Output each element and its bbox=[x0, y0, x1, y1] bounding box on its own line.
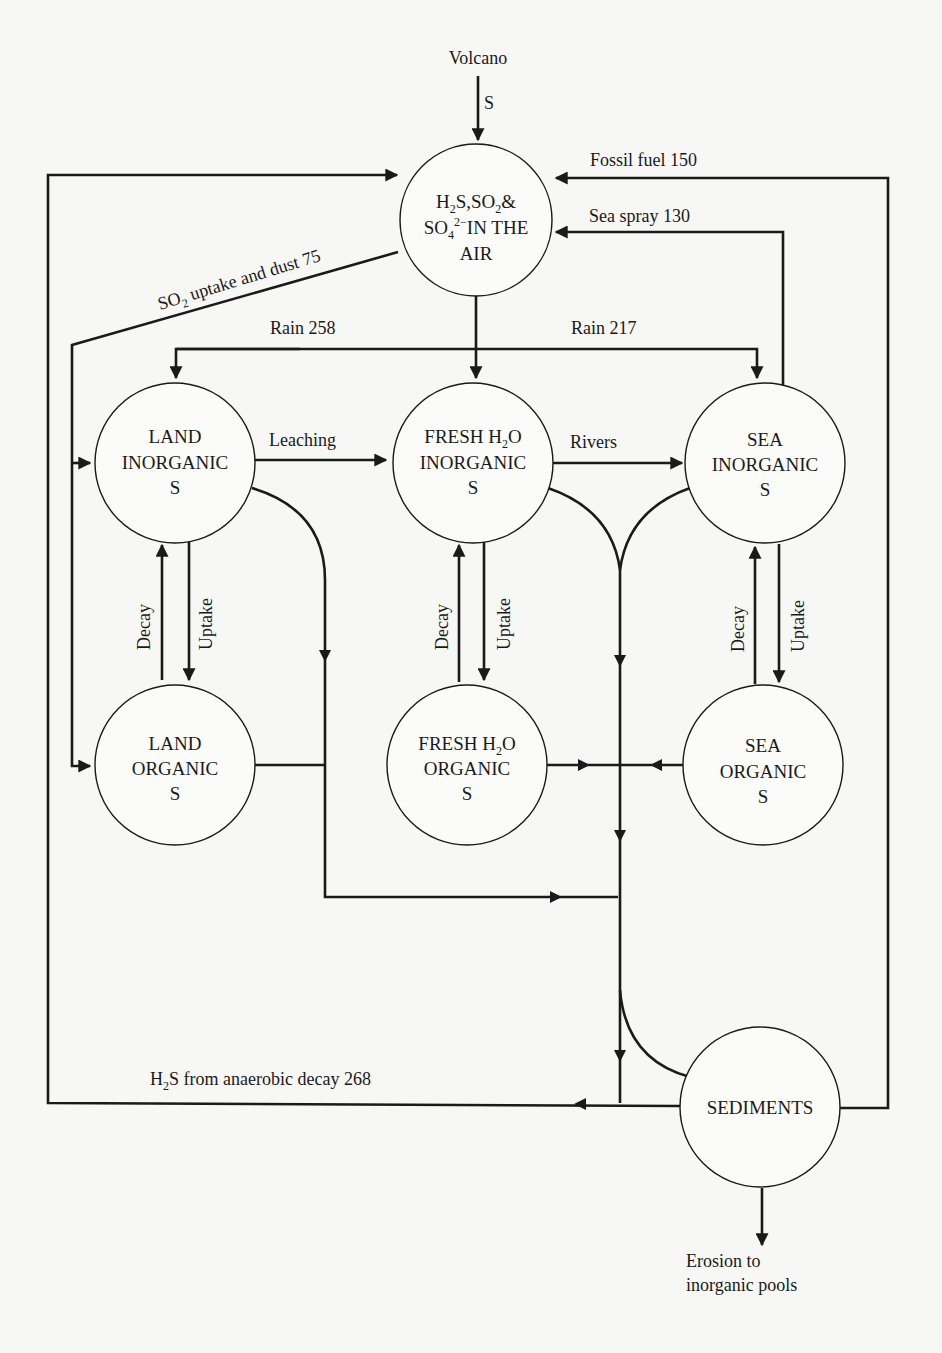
middle-collector-flow bbox=[547, 488, 690, 1103]
rain-flow bbox=[176, 296, 757, 378]
svg-text:INORGANIC: INORGANIC bbox=[420, 452, 527, 473]
arrow-right-icon bbox=[550, 891, 562, 903]
h2s-decay-label: H2S from anaerobic decay 268 bbox=[150, 1069, 371, 1093]
rain-land-line bbox=[176, 349, 300, 378]
rivers-label: Rivers bbox=[570, 432, 617, 452]
fresh-uptake-label: Uptake bbox=[494, 598, 514, 650]
rain-sea-line bbox=[176, 349, 757, 378]
arrow-left-icon bbox=[650, 759, 662, 771]
fresh-inorg-curve bbox=[548, 488, 620, 570]
svg-text:ORGANIC: ORGANIC bbox=[424, 758, 511, 779]
land-decay-label: Decay bbox=[134, 604, 154, 650]
svg-text:ORGANIC: ORGANIC bbox=[132, 758, 219, 779]
svg-text:S: S bbox=[760, 479, 771, 500]
sea-decay-uptake bbox=[755, 544, 779, 684]
rain-land-label: Rain 258 bbox=[270, 318, 336, 338]
sea-spray-line bbox=[556, 232, 783, 385]
sea-spray-flow bbox=[556, 232, 783, 385]
node-air: H2S,SO2& SO42−IN THE AIR bbox=[400, 144, 552, 296]
svg-text:ORGANIC: ORGANIC bbox=[720, 761, 807, 782]
arrow-down-icon bbox=[319, 650, 331, 662]
sea-decay-label: Decay bbox=[728, 606, 748, 652]
node-fresh-organic: FRESH H2O ORGANIC S bbox=[387, 685, 547, 845]
sea-spray-label: Sea spray 130 bbox=[589, 206, 690, 226]
node-fresh-inorganic: FRESH H2O INORGANIC S bbox=[393, 383, 553, 543]
node-sea-inorganic: SEA INORGANIC S bbox=[685, 383, 845, 543]
node-land-inorganic: LAND INORGANIC S bbox=[95, 383, 255, 543]
arrow-left-icon bbox=[574, 1098, 586, 1110]
fresh-decay-label: Decay bbox=[432, 604, 452, 650]
node-sediments: SEDIMENTS bbox=[680, 1027, 840, 1187]
arrow-down-icon bbox=[614, 830, 626, 842]
svg-text:SO42−IN THE: SO42−IN THE bbox=[424, 215, 528, 242]
rain-sea-label: Rain 217 bbox=[571, 318, 637, 338]
svg-text:AIR: AIR bbox=[460, 243, 493, 264]
sea-inorg-curve bbox=[620, 488, 690, 570]
sea-uptake-label: Uptake bbox=[788, 600, 808, 652]
node-sea-organic: SEA ORGANIC S bbox=[683, 685, 843, 845]
node-land-organic: LAND ORGANIC S bbox=[95, 685, 255, 845]
sediments-curve bbox=[620, 990, 690, 1077]
svg-text:SEA: SEA bbox=[745, 735, 781, 756]
erosion-label-line1: Erosion to bbox=[686, 1251, 761, 1271]
volcano-label: Volcano bbox=[449, 48, 508, 68]
sulfur-cycle-diagram: H2S,SO2& SO42−IN THE AIR LAND INORGANIC … bbox=[0, 0, 942, 1353]
arrow-right-icon bbox=[578, 759, 590, 771]
svg-text:SEA: SEA bbox=[747, 429, 783, 450]
fossil-fuel-label: Fossil fuel 150 bbox=[590, 150, 697, 170]
fresh-decay-uptake bbox=[459, 542, 484, 682]
svg-text:S: S bbox=[170, 783, 181, 804]
land-uptake-label: Uptake bbox=[196, 598, 216, 650]
arrow-down-icon bbox=[614, 655, 626, 667]
svg-text:INORGANIC: INORGANIC bbox=[122, 452, 229, 473]
svg-text:SEDIMENTS: SEDIMENTS bbox=[707, 1097, 814, 1118]
svg-text:LAND: LAND bbox=[149, 733, 202, 754]
land-decay-uptake bbox=[162, 540, 189, 680]
svg-text:S: S bbox=[468, 477, 479, 498]
svg-text:LAND: LAND bbox=[149, 426, 202, 447]
svg-text:INORGANIC: INORGANIC bbox=[712, 454, 819, 475]
svg-text:S: S bbox=[462, 783, 473, 804]
erosion-label-line2: inorganic pools bbox=[686, 1275, 797, 1295]
leaching-label: Leaching bbox=[269, 430, 336, 450]
svg-text:S: S bbox=[170, 477, 181, 498]
svg-text:S: S bbox=[758, 786, 769, 807]
arrow-down-icon bbox=[614, 1050, 626, 1062]
volcano-s-label: S bbox=[484, 93, 494, 113]
